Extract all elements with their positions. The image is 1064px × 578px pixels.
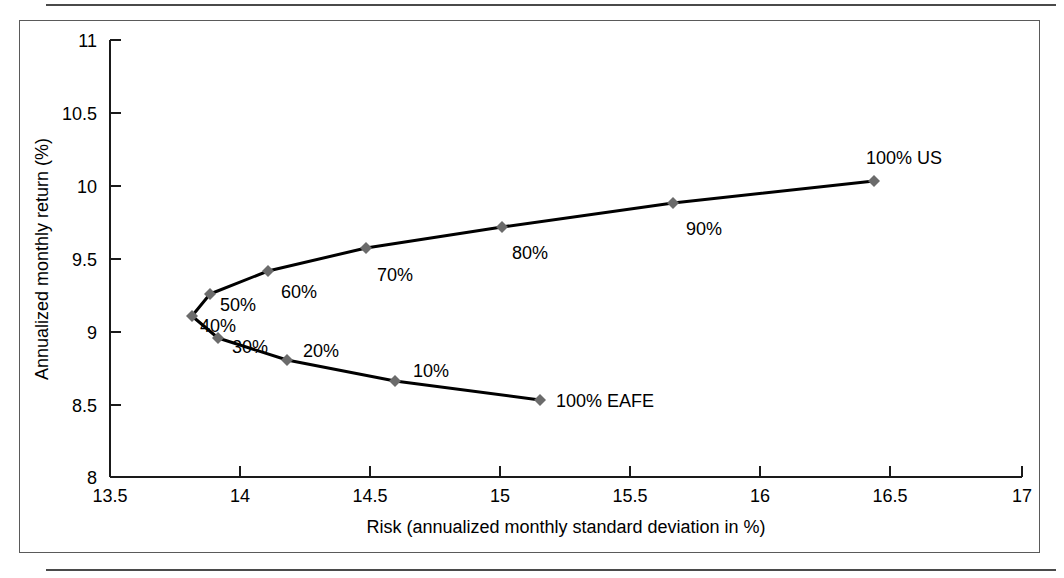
annotation-70: 70% xyxy=(377,265,413,285)
y-tick-label-10: 10 xyxy=(77,177,97,197)
y-tick-label-8-5: 8.5 xyxy=(72,396,97,416)
x-axis-title: Risk (annualized monthly standard deviat… xyxy=(366,517,765,537)
y-tick-label-8: 8 xyxy=(87,468,97,488)
annotation-30: 30% xyxy=(232,337,268,357)
data-point-90[interactable] xyxy=(667,197,679,209)
data-point-100-eafe[interactable] xyxy=(534,394,546,406)
x-axis-ticks xyxy=(240,466,1022,477)
annotation-100-eafe: 100% EAFE xyxy=(556,391,654,411)
data-point-60[interactable] xyxy=(262,265,274,277)
annotation-80: 80% xyxy=(512,243,548,263)
x-tick-label-15: 15 xyxy=(490,486,510,506)
data-point-80[interactable] xyxy=(496,221,508,233)
x-tick-label-14: 14 xyxy=(230,486,250,506)
x-tick-label-16-5: 16.5 xyxy=(872,486,907,506)
x-tick-label-13-5: 13.5 xyxy=(92,486,127,506)
y-tick-label-9: 9 xyxy=(87,323,97,343)
y-tick-label-11: 11 xyxy=(78,31,97,51)
annotation-100-us: 100% US xyxy=(866,148,942,168)
y-axis-ticks xyxy=(110,40,121,405)
annotation-60: 60% xyxy=(281,282,317,302)
x-tick-label-14-5: 14.5 xyxy=(352,486,387,506)
annotation-90: 90% xyxy=(686,219,722,239)
annotation-40: 40% xyxy=(200,316,236,336)
annotation-50: 50% xyxy=(220,295,256,315)
data-point-100-us[interactable] xyxy=(868,175,880,187)
efficient-frontier-chart: 11 10.5 10 9.5 9 8.5 8 13.5 14 14.5 15 1… xyxy=(0,0,1064,578)
annotation-20: 20% xyxy=(303,341,339,361)
y-tick-label-10-5: 10.5 xyxy=(62,104,97,124)
data-point-10[interactable] xyxy=(389,375,401,387)
y-axis-title: Annualized monthly return (%) xyxy=(32,138,52,380)
data-point-70[interactable] xyxy=(360,242,372,254)
x-tick-label-16: 16 xyxy=(750,486,770,506)
annotation-10: 10% xyxy=(413,361,449,381)
bottom-horizontal-rule xyxy=(46,569,1056,571)
y-tick-label-9-5: 9.5 xyxy=(72,250,97,270)
data-point-20[interactable] xyxy=(281,354,293,366)
figure-page: 11 10.5 10 9.5 9 8.5 8 13.5 14 14.5 15 1… xyxy=(0,0,1064,578)
x-tick-label-15-5: 15.5 xyxy=(612,486,647,506)
x-tick-label-17: 17 xyxy=(1012,486,1032,506)
